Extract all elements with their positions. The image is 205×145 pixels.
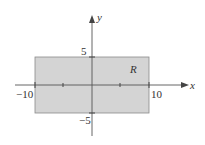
tick-label-x-10: 10 — [151, 88, 163, 100]
x-axis-arrow-icon — [181, 82, 189, 88]
x-axis-label: x — [189, 79, 195, 91]
y-axis-arrow-icon — [89, 15, 95, 23]
tick-label-y-5: 5 — [81, 45, 87, 57]
coordinate-plane: y x R −10 10 5 −5 — [0, 0, 205, 145]
y-axis-label: y — [96, 11, 102, 23]
tick-label-x-neg10: −10 — [16, 88, 34, 100]
tick-label-y-neg5: −5 — [79, 114, 91, 126]
region-label: R — [129, 63, 137, 75]
